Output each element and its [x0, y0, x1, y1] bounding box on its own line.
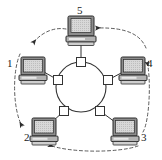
- token-arc-5-to-1: [33, 29, 66, 43]
- network-topology-diagram: 5 1 4 2 3: [0, 0, 162, 160]
- token-arc-2-to-3: [49, 145, 138, 151]
- desktop-computer-icon: [19, 57, 47, 84]
- ring-port-top: [77, 58, 86, 67]
- node-label-1: 1: [7, 58, 13, 69]
- node-label-2: 2: [24, 132, 30, 143]
- desktop-computer-icon: [111, 118, 139, 145]
- node-label-3: 3: [141, 132, 147, 143]
- ring-port-bottom-left: [60, 107, 69, 116]
- token-arc-4-to-5: [96, 28, 146, 48]
- desktop-computer-icon: [66, 16, 96, 46]
- desktop-computer-icon: [30, 118, 58, 145]
- ring-ports: [54, 58, 113, 116]
- ring-port-bottom-right: [96, 107, 105, 116]
- central-ring-circle: [56, 62, 106, 112]
- desktop-computer-icon: [119, 57, 147, 84]
- ring-port-right: [104, 76, 113, 85]
- ring-port-left: [54, 76, 63, 85]
- node-label-4: 4: [147, 58, 153, 69]
- node-label-5: 5: [77, 5, 83, 16]
